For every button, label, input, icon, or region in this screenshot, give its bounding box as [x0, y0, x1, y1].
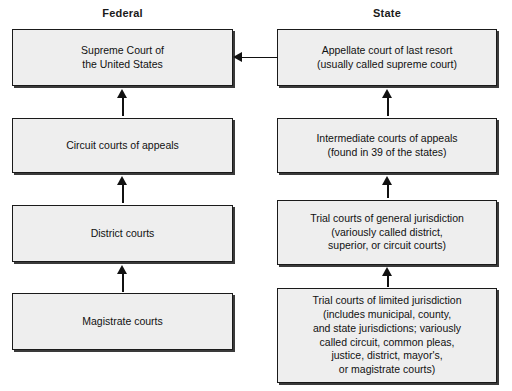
- federal-court-label: Circuit courts of appeals: [19, 139, 226, 153]
- arrow-shaft: [387, 273, 389, 287]
- state-court-label: Trial courts of general jurisdiction (va…: [284, 212, 490, 254]
- state-court-label: Appellate court of last resort (usually …: [284, 44, 490, 72]
- state-court-label: Trial courts of limited jurisdiction (in…: [284, 294, 490, 377]
- arrow-shaft: [239, 57, 278, 59]
- arrow-up-icon: [117, 265, 128, 292]
- state-court-box-general-jurisdiction: Trial courts of general jurisdiction (va…: [277, 200, 497, 265]
- state-court-box-intermediate-appeals: Intermediate courts of appeals (found in…: [277, 118, 497, 173]
- arrow-shaft: [387, 182, 389, 198]
- arrow-up-icon: [382, 267, 393, 287]
- arrow-shaft: [122, 271, 124, 292]
- arrow-up-icon: [117, 176, 128, 203]
- column-header-state: State: [277, 7, 497, 19]
- federal-court-box-circuit-appeals: Circuit courts of appeals: [12, 118, 233, 173]
- arrow-shaft: [122, 182, 124, 203]
- federal-court-box-magistrate: Magistrate courts: [12, 293, 233, 350]
- arrow-up-icon: [382, 176, 393, 198]
- arrow-up-icon: [382, 89, 393, 116]
- federal-court-label: Magistrate courts: [19, 315, 226, 329]
- state-court-label: Intermediate courts of appeals (found in…: [284, 132, 490, 160]
- court-system-diagram: Federal State Supreme Court of the Unite…: [0, 0, 512, 391]
- federal-court-label: District courts: [19, 227, 226, 241]
- federal-court-box-district: District courts: [12, 205, 233, 262]
- arrow-left-icon: [233, 52, 278, 63]
- arrow-up-icon: [117, 89, 128, 116]
- state-court-box-limited-jurisdiction: Trial courts of limited jurisdiction (in…: [277, 288, 497, 383]
- federal-court-label: Supreme Court of the United States: [19, 44, 226, 72]
- arrow-shaft: [387, 95, 389, 116]
- column-header-federal: Federal: [12, 7, 233, 19]
- federal-court-box-supreme: Supreme Court of the United States: [12, 29, 233, 86]
- arrow-shaft: [122, 95, 124, 116]
- state-court-box-last-resort: Appellate court of last resort (usually …: [277, 29, 497, 86]
